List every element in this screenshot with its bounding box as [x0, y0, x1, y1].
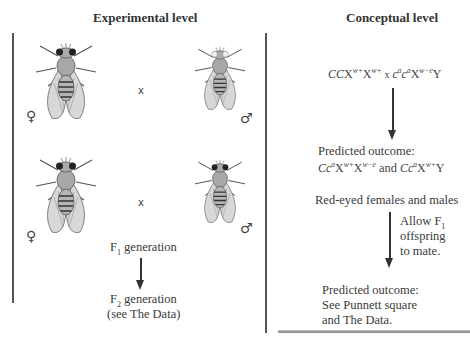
cross-symbol: x: [138, 85, 144, 96]
predicted-outcome-1-heading: Predicted outcome:: [318, 144, 415, 159]
red-eye-icon: [56, 49, 63, 56]
allow-f1-offspring-line: offspring: [400, 229, 446, 244]
left-border-line-lower: [12, 153, 14, 303]
parental-cross-genotype: CCXw+Xw+ x cacaXw−eY: [328, 66, 441, 82]
allow-f1-to-mate-line: to mate.: [400, 244, 440, 259]
male-symbol-icon: ♂: [240, 220, 253, 236]
experimental-level-title: Experimental level: [93, 10, 197, 26]
female-fly-1: [30, 38, 102, 132]
phenotype-label: Red-eyed females and males: [315, 193, 458, 208]
center-divider-line: [265, 33, 267, 333]
down-arrow-icon: [140, 258, 142, 282]
predicted-outcome-2-data: and The Data.: [322, 313, 392, 328]
cross-symbol: x: [138, 197, 144, 208]
male-symbol-icon: ♂: [240, 110, 253, 126]
female-fly-2: [30, 152, 102, 246]
conceptual-level-title: Conceptual level: [346, 10, 438, 26]
predicted-outcome-2-punnett: See Punnett square: [322, 298, 417, 313]
down-arrow-icon: [392, 88, 394, 132]
bottom-shadow-line: [278, 330, 470, 333]
predicted-outcome-2-heading: Predicted outcome:: [322, 283, 419, 298]
female-symbol-icon: ♀: [26, 228, 36, 244]
f1-generation-label: F1 generation: [110, 240, 177, 260]
down-arrow-icon: [389, 212, 391, 260]
predicted-outcome-1-genotypes: CcaXw+Xw−e and CcaXw+Y: [318, 160, 445, 176]
f2-note: (see The Data): [107, 307, 180, 322]
left-border-line: [12, 33, 14, 153]
female-symbol-icon: ♀: [26, 108, 36, 124]
